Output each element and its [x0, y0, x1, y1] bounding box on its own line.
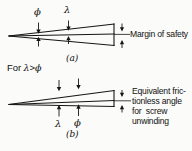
annotation-margin-of-safety: Margin of safety — [130, 30, 188, 39]
annotation-equivalent-angle-line2: tionless angle — [132, 97, 182, 106]
figure-linework — [0, 0, 192, 151]
label-lambda-bottom-b: λ — [55, 119, 61, 129]
annotation-equivalent-angle-line1: Equivalent fric- — [132, 87, 186, 96]
figure-root: ϕ λ Margin of safety (a) For λ>ϕ λ ϕ Equ… — [0, 0, 192, 151]
diagram-a-wedge — [9, 24, 115, 46]
diagram-b-angle-dimension — [114, 90, 131, 113]
annotation-equivalent-angle-line3: for screw — [132, 107, 167, 116]
caption-a: (a) — [66, 54, 78, 63]
label-phi-bottom-b: ϕ — [74, 118, 81, 128]
caption-b: (b) — [66, 130, 78, 139]
diagram-b-top-arrows — [57, 79, 81, 92]
annotation-equivalent-angle-line4: unwinding — [132, 117, 169, 126]
condition-prefix: For — [7, 62, 24, 73]
condition-lambda-greater-phi: For λ>ϕ — [7, 63, 41, 73]
diagram-a-margin-dimension — [114, 24, 130, 49]
label-lambda-top-a: λ — [64, 5, 70, 15]
diagram-a-lambda-arrow — [66, 21, 70, 45]
diagram-b-wedge — [9, 90, 115, 107]
label-phi-top-a: ϕ — [34, 7, 41, 17]
diagram-a-phi-arrow — [36, 23, 40, 47]
condition-phi: ϕ — [35, 62, 41, 73]
